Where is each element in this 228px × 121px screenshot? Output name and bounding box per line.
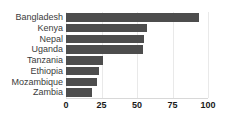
bar-mozambique xyxy=(66,78,97,87)
y-axis-labels: BangladeshKenyaNepalUgandaTanzaniaEthiop… xyxy=(0,12,63,98)
x-axis-tick-label-0: 0 xyxy=(63,100,68,110)
bar-row xyxy=(66,87,208,98)
y-axis-label-kenya: Kenya xyxy=(0,23,63,34)
bar-row xyxy=(66,44,208,55)
bar-row xyxy=(66,66,208,77)
bar-chart-figure: BangladeshKenyaNepalUgandaTanzaniaEthiop… xyxy=(0,0,228,121)
bar-row xyxy=(66,23,208,34)
x-axis-ticks: 0255075100 xyxy=(66,100,208,116)
bar-ethiopia xyxy=(66,67,99,76)
x-axis-tick-label-50: 50 xyxy=(132,100,142,110)
y-axis-label-tanzania: Tanzania xyxy=(0,55,63,66)
bar-uganda xyxy=(66,45,143,54)
bar-rows xyxy=(66,12,208,98)
x-axis-tick-label-100: 100 xyxy=(200,100,215,110)
bar-nepal xyxy=(66,35,144,44)
gridline-100 xyxy=(208,12,209,98)
x-axis-tick-label-25: 25 xyxy=(96,100,106,110)
x-axis-tick-label-75: 75 xyxy=(167,100,177,110)
bar-row xyxy=(66,34,208,45)
bar-zambia xyxy=(66,88,92,97)
bar-bangladesh xyxy=(66,13,199,22)
y-axis-label-ethiopia: Ethiopia xyxy=(0,66,63,77)
plot-area xyxy=(66,12,208,98)
y-axis-label-mozambique: Mozambique xyxy=(0,77,63,88)
y-axis-label-bangladesh: Bangladesh xyxy=(0,12,63,23)
y-axis-label-nepal: Nepal xyxy=(0,34,63,45)
y-axis-label-uganda: Uganda xyxy=(0,44,63,55)
bar-row xyxy=(66,12,208,23)
y-axis-label-zambia: Zambia xyxy=(0,87,63,98)
bar-tanzania xyxy=(66,56,103,65)
x-axis-line xyxy=(66,98,208,99)
bar-kenya xyxy=(66,24,147,33)
bar-row xyxy=(66,77,208,88)
bar-row xyxy=(66,55,208,66)
